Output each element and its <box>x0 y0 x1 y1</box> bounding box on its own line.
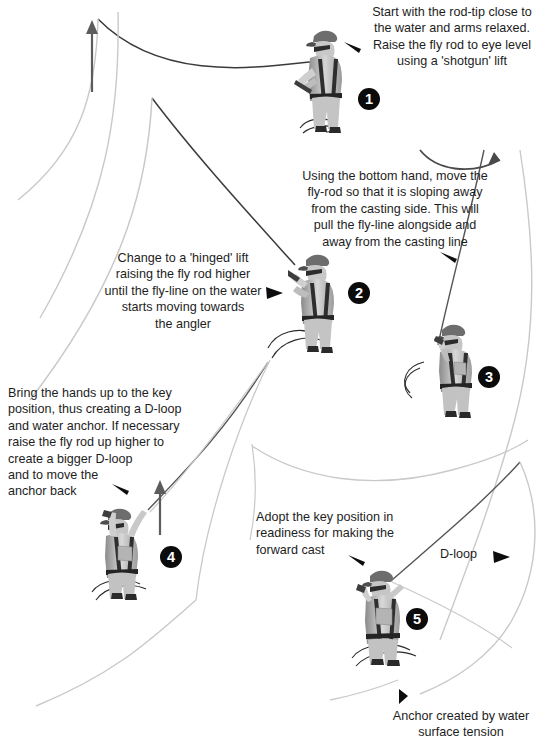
diagram-canvas: Start with the rod-tip close to the wate… <box>0 0 551 744</box>
angler-figure-3 <box>428 318 486 418</box>
step-1-caption: Start with the rod-tip close to the wate… <box>356 4 548 70</box>
angler-figure-5 <box>352 562 414 666</box>
angler-figure-2 <box>288 250 348 354</box>
angler-figure-4 <box>94 498 154 600</box>
step-5-badge: 5 <box>406 608 428 630</box>
step-4-badge: 4 <box>160 546 182 568</box>
step-4-pointer-triangle-left <box>110 482 130 496</box>
d-loop-pointer-triangle-right <box>491 550 511 564</box>
anchor-pointer-triangle-right <box>396 688 410 706</box>
step-2-badge: 2 <box>348 282 370 304</box>
d-loop-label: D-loop <box>440 546 477 562</box>
step-5-pointer-triangle-left <box>346 553 366 567</box>
step-1-pointer-triangle-left <box>342 40 362 54</box>
arrow-up-icon <box>86 20 98 92</box>
step-3-caption: Using the bottom hand, move the fly-rod … <box>286 168 504 250</box>
step-3-badge: 3 <box>478 366 500 388</box>
step-2-caption: Change to a 'hinged' lift raising the fl… <box>90 250 276 332</box>
step-2-pointer-triangle-right <box>264 286 284 300</box>
step-5-caption: Adopt the key position in readiness for … <box>256 509 412 558</box>
step-1-badge: 1 <box>358 88 380 110</box>
curved-arrow-right-icon <box>420 150 500 169</box>
anchor-caption: Anchor created by water surface tension <box>374 708 548 741</box>
step-3-pointer-triangle-left <box>438 250 458 264</box>
